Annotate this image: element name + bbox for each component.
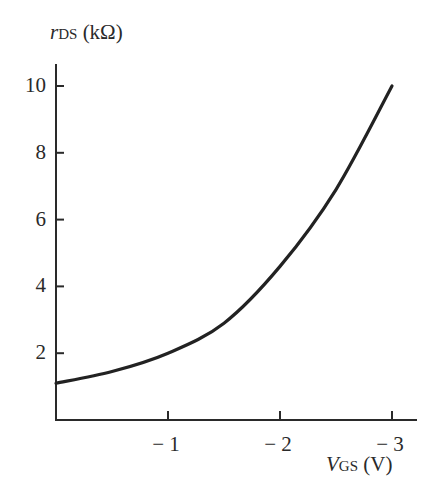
y-axis-symbol: r: [50, 20, 58, 44]
x-tick-label: − 3: [365, 432, 415, 457]
y-tick-label: 2: [16, 340, 46, 365]
x-ticks: [168, 411, 392, 420]
x-tick-label: − 2: [253, 432, 303, 457]
plot-area: [0, 0, 438, 499]
rds-curve: [56, 86, 392, 383]
y-tick-label: 10: [16, 73, 46, 98]
y-axis-subscript: DS: [58, 26, 77, 42]
y-tick-label: 6: [16, 207, 46, 232]
y-axis-unit: (kΩ): [83, 20, 123, 44]
y-axis-label: rDS (kΩ): [50, 20, 123, 45]
y-tick-label: 4: [16, 273, 46, 298]
y-tick-label: 8: [16, 140, 46, 165]
y-ticks: [56, 86, 64, 353]
x-axis-subscript: GS: [339, 458, 358, 474]
x-axis-symbol: V: [326, 452, 339, 476]
x-tick-label: − 1: [141, 432, 191, 457]
